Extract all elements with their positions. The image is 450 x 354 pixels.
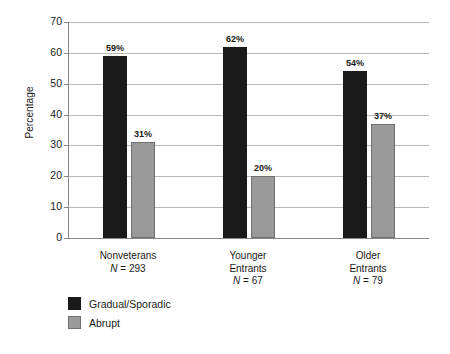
bar-gradual-sporadic-group-2[interactable]	[223, 47, 247, 238]
bar-abrupt-group-1[interactable]	[131, 142, 155, 238]
bar-gradual-sporadic-group-3[interactable]	[343, 71, 367, 238]
y-tick-label-20: 20	[0, 170, 62, 181]
x-group-name-line: Older	[298, 250, 438, 263]
y-tick-label-70: 70	[0, 16, 62, 27]
bar-abrupt-group-2[interactable]	[251, 176, 275, 238]
legend-swatch-icon-gradual-sporadic	[68, 297, 81, 310]
bar-value-label-abrupt-group-3: 37%	[363, 111, 403, 121]
x-axis-line	[68, 238, 429, 239]
legend-label: Abrupt	[89, 317, 120, 329]
chart-legend: Gradual/SporadicAbrupt	[68, 294, 171, 332]
y-tick-label-10: 10	[0, 201, 62, 212]
y-tick-label-0: 0	[0, 232, 62, 243]
bar-chart-figure: Percentage 010203040506070 59%31%62%20%5…	[0, 0, 450, 354]
plot-top-border	[69, 22, 429, 23]
x-group-name-line: Entrants	[178, 263, 318, 276]
legend-label: Gradual/Sporadic	[89, 298, 171, 310]
y-tick-label-40: 40	[0, 109, 62, 120]
x-group-name-line: Nonveterans	[58, 250, 198, 263]
bar-gradual-sporadic-group-1[interactable]	[103, 56, 127, 238]
x-axis-group-label-2: YoungerEntrantsN = 67	[178, 250, 318, 288]
bar-value-label-gradual-sporadic-group-3: 54%	[335, 58, 375, 68]
bar-value-label-abrupt-group-2: 20%	[243, 163, 283, 173]
y-tick-label-30: 30	[0, 139, 62, 150]
plot-area: 59%31%62%20%54%37%	[68, 22, 429, 238]
bar-value-label-abrupt-group-1: 31%	[123, 129, 163, 139]
x-group-name-line: Entrants	[298, 263, 438, 276]
gridline-60	[69, 53, 429, 54]
x-group-name-line: Younger	[178, 250, 318, 263]
y-tick-label-50: 50	[0, 78, 62, 89]
y-tick-label-60: 60	[0, 47, 62, 58]
legend-swatch-icon-abrupt	[68, 316, 81, 329]
x-group-sample-size: N = 79	[298, 275, 438, 288]
legend-item-abrupt[interactable]: Abrupt	[68, 313, 171, 332]
x-group-sample-size: N = 67	[178, 275, 318, 288]
bar-value-label-gradual-sporadic-group-1: 59%	[95, 43, 135, 53]
legend-item-gradual-sporadic[interactable]: Gradual/Sporadic	[68, 294, 171, 313]
bar-value-label-gradual-sporadic-group-2: 62%	[215, 34, 255, 44]
x-axis-group-label-1: NonveteransN = 293	[58, 250, 198, 275]
bar-abrupt-group-3[interactable]	[371, 124, 395, 238]
x-axis-group-label-3: OlderEntrantsN = 79	[298, 250, 438, 288]
x-group-sample-size: N = 293	[58, 263, 198, 276]
